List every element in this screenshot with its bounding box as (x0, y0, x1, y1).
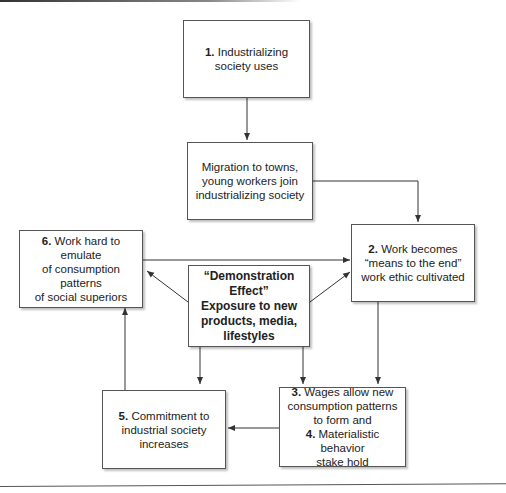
box-text-line: Work hard to emulate (55, 235, 121, 261)
box-text-line: lifestyles (223, 329, 274, 343)
step-number: 3. (292, 386, 302, 398)
step-number: 2. (368, 243, 378, 255)
step-number: 5. (119, 410, 129, 422)
box-text: Migration to towns, young workers join i… (192, 160, 308, 202)
box-title: “Demonstration Effect” (204, 269, 295, 298)
box-work-means-to-end: 2. Work becomes “means to the end” work … (351, 224, 475, 302)
box-text-line: increases (139, 438, 188, 450)
box-text-line: consumption patterns (288, 400, 398, 412)
box-text-line: Exposure to new (201, 299, 297, 313)
box-text-line: industrial society (121, 424, 206, 436)
box-text-line: Commitment to (131, 410, 209, 422)
box-demonstration-effect: “Demonstration Effect” Exposure to new p… (188, 265, 310, 347)
box-text-line: to form and (313, 414, 371, 426)
box-text-line: stake hold (316, 456, 368, 468)
box-text-line: Wages allow new (304, 386, 393, 398)
step-number: 1. (205, 46, 215, 58)
box-text: Industrializing society uses (215, 46, 288, 72)
box-text-line: work ethic cultivated (361, 271, 465, 283)
box-migration: Migration to towns, young workers join i… (187, 142, 313, 220)
box-text-line: “means to the end” (365, 257, 462, 269)
box-commitment-increases: 5. Commitment to industrial society incr… (102, 390, 226, 469)
box-wages-materialistic: 3. Wages allow new consumption patterns … (279, 387, 406, 467)
box-emulate-consumption: 6. Work hard to emulate of consumption p… (19, 230, 143, 308)
step-number: 6. (42, 235, 52, 247)
step-number: 4. (306, 428, 316, 440)
box-text-line: Materialistic behavior (319, 428, 380, 454)
box-text-line: of consumption patterns (42, 263, 120, 289)
box-industrializing-society: 1. Industrializing society uses (183, 20, 310, 98)
box-text-line: of social superiors (35, 291, 128, 303)
box-text-line: products, media, (201, 314, 297, 328)
box-text-line: Work becomes (381, 243, 457, 255)
